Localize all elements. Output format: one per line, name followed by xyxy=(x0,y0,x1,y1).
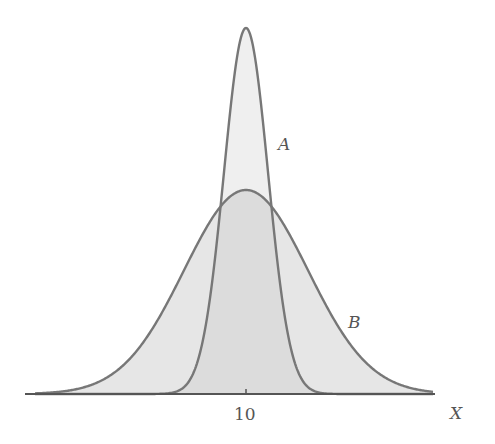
curve-b-label: B xyxy=(348,312,361,332)
curve-a-label: A xyxy=(278,134,290,154)
curve-overlap-fill xyxy=(35,190,433,394)
x-tick-label-10: 10 xyxy=(234,404,256,424)
x-axis-label: X xyxy=(450,403,462,423)
chart-canvas xyxy=(0,0,495,444)
